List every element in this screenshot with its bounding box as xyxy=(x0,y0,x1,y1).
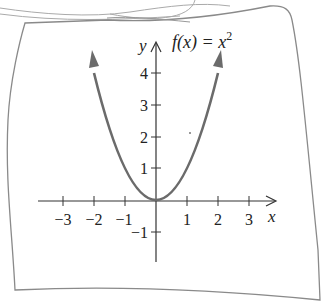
parabola-diagram: −3 −2 −1 1 2 3 4 3 2 1 −1 x y f(x) = x2 xyxy=(0,0,322,303)
function-label: f(x) = x2 xyxy=(172,29,232,53)
y-tick-label: 2 xyxy=(140,129,148,146)
x-tick-label: −1 xyxy=(115,211,132,228)
y-tick-label: 1 xyxy=(140,160,148,177)
y-tick-label: 3 xyxy=(140,97,148,114)
sketch-frame xyxy=(7,6,320,300)
curve-arrow-right xyxy=(213,50,223,68)
x-tick-label: 3 xyxy=(245,211,253,228)
x-tick-label: 1 xyxy=(183,211,191,228)
x-tick-label: −2 xyxy=(85,211,102,228)
curve-arrow-left xyxy=(89,50,99,68)
stray-dot xyxy=(189,132,191,134)
x-axis-label: x xyxy=(267,207,276,226)
y-tick-label: 4 xyxy=(140,65,148,82)
y-axis-label: y xyxy=(137,36,147,55)
x-tick-label: 2 xyxy=(214,211,222,228)
x-tick-label: −3 xyxy=(54,211,71,228)
sketch-flap xyxy=(107,17,190,22)
y-tick-label: −1 xyxy=(131,224,148,241)
